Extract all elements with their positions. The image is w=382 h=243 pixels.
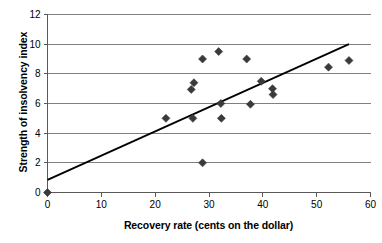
data-point-marker <box>215 48 223 56</box>
x-tick-label-20: 20 <box>150 199 162 210</box>
data-point-marker <box>243 55 251 63</box>
x-tick-labels-group: 0102030405060 <box>45 199 377 210</box>
plot-area: 0102030405060 024681012 <box>0 0 382 243</box>
data-point-marker <box>44 189 52 197</box>
data-point-marker <box>199 55 207 63</box>
y-tick-label-6: 6 <box>35 98 41 109</box>
x-tick-label-10: 10 <box>96 199 108 210</box>
gridlines-group <box>48 15 371 163</box>
x-tick-label-0: 0 <box>45 199 51 210</box>
trendline-group <box>48 44 349 180</box>
x-tick-label-60: 60 <box>365 199 377 210</box>
y-tick-label-8: 8 <box>35 68 41 79</box>
data-point-marker <box>269 91 277 99</box>
scatter-chart-figure: Strength of insolvency index Recovery ra… <box>0 0 382 243</box>
y-tick-label-2: 2 <box>35 157 41 168</box>
x-tick-label-50: 50 <box>311 199 323 210</box>
y-tick-label-10: 10 <box>29 39 41 50</box>
x-tick-label-30: 30 <box>203 199 215 210</box>
data-point-marker <box>162 114 170 122</box>
x-tick-label-40: 40 <box>257 199 269 210</box>
y-tick-labels-group: 024681012 <box>29 9 41 198</box>
y-tick-label-0: 0 <box>35 187 41 198</box>
trendline <box>48 44 349 180</box>
y-tick-label-4: 4 <box>35 128 41 139</box>
y-tick-label-12: 12 <box>29 9 41 20</box>
x-tick-marks-group <box>48 193 371 197</box>
data-point-marker <box>199 159 207 167</box>
data-point-marker <box>217 114 225 122</box>
data-point-marker <box>246 100 254 108</box>
data-points-group <box>44 48 353 197</box>
data-point-marker <box>325 63 333 71</box>
data-point-marker <box>345 56 353 64</box>
